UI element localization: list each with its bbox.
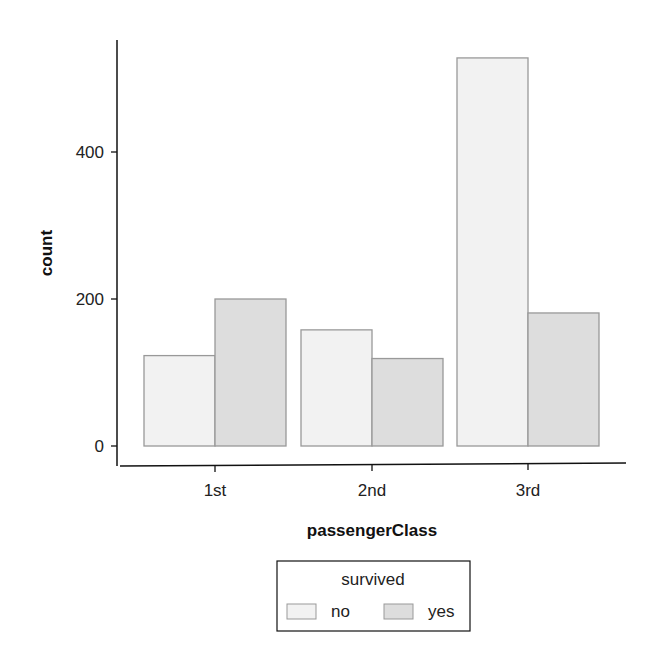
bar-3rd-yes bbox=[528, 313, 599, 446]
y-ticks: 0200400 bbox=[76, 143, 117, 456]
y-axis-title: count bbox=[37, 230, 56, 277]
x-tick-label: 3rd bbox=[516, 481, 541, 500]
legend-label-no: no bbox=[331, 602, 350, 621]
bar-2nd-no bbox=[301, 330, 372, 446]
bar-3rd-no bbox=[457, 58, 528, 446]
y-tick-label: 200 bbox=[76, 290, 104, 309]
bar-1st-yes bbox=[215, 299, 286, 446]
x-ticks: 1st2nd3rd bbox=[204, 463, 541, 500]
legend-swatch-no bbox=[287, 604, 316, 619]
legend-swatch-yes bbox=[384, 604, 413, 619]
legend-label-yes: yes bbox=[428, 602, 454, 621]
bar-2nd-yes bbox=[372, 359, 443, 446]
x-axis-title: passengerClass bbox=[307, 521, 437, 540]
y-tick-label: 400 bbox=[76, 143, 104, 162]
x-axis-line bbox=[120, 463, 626, 466]
x-tick-label: 1st bbox=[204, 481, 227, 500]
bars-group bbox=[144, 58, 599, 446]
legend-title: survived bbox=[341, 570, 404, 589]
legend: survived no yes bbox=[277, 561, 470, 631]
x-tick-label: 2nd bbox=[358, 481, 386, 500]
chart: 0200400 1st2nd3rd count passengerClass s… bbox=[0, 0, 656, 658]
y-tick-label: 0 bbox=[95, 437, 104, 456]
bar-1st-no bbox=[144, 356, 215, 446]
